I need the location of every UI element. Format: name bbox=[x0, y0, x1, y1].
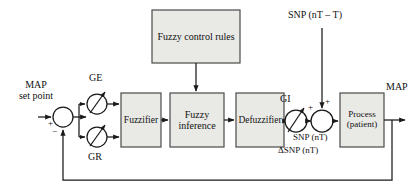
block-fuzzy-inference-shape bbox=[170, 93, 224, 147]
snp-delayed-input-label: SNP (nT – T) bbox=[288, 10, 342, 21]
delta-snp-nt-label: ΔSNP (nT) bbox=[278, 146, 318, 155]
map-set-point-line2: set point bbox=[8, 91, 64, 102]
gain-ge-label: GE bbox=[89, 73, 102, 84]
delta-snp-nt-text: ΔSNP (nT) bbox=[278, 145, 318, 155]
error-summer-minus-sign: − bbox=[52, 126, 57, 136]
gain-gi-text: GI bbox=[280, 93, 291, 104]
block-process-patient-shape bbox=[340, 93, 384, 147]
gain-gr-text: GR bbox=[88, 151, 102, 162]
block-defuzzifier-shape bbox=[236, 93, 284, 147]
map-set-point-line1: MAP bbox=[8, 80, 64, 91]
map-output-text: MAP bbox=[386, 81, 408, 92]
map-set-point-label: MAP set point bbox=[8, 80, 64, 101]
block-fuzzifier-shape bbox=[121, 93, 161, 147]
map-output-label: MAP bbox=[386, 82, 408, 93]
gain-gi-label: GI bbox=[280, 94, 291, 105]
snp-summer-plus-sign-top: + bbox=[325, 96, 330, 106]
snp-nt-label: SNP (nT) bbox=[293, 133, 327, 142]
snp-delayed-input-text: SNP (nT – T) bbox=[288, 9, 342, 20]
block-fuzzy-control-rules-shape bbox=[152, 10, 240, 63]
snp-nt-text: SNP (nT) bbox=[293, 132, 327, 142]
error-summer-circle bbox=[53, 107, 73, 127]
snp-summer-plus-sign-left: + bbox=[308, 102, 313, 112]
gain-gr-label: GR bbox=[88, 152, 102, 163]
block-diagram-canvas: Fuzzy control rules Fuzzifier Fuzzy infe… bbox=[0, 0, 415, 193]
gain-ge-text: GE bbox=[89, 72, 102, 83]
snp-summer-circle bbox=[311, 110, 333, 132]
